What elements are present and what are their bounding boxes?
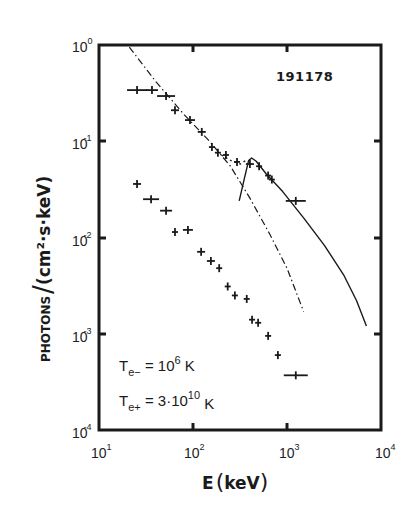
data-point-cross [215, 149, 221, 157]
data-point-cross [244, 295, 250, 303]
data-point-cross [146, 86, 158, 94]
svg-text:103: 103 [279, 442, 300, 461]
y-tick-labels: 100 10-1 10-2 10-3 10-4 [72, 36, 93, 441]
data-point-cross [157, 92, 175, 100]
solid-model-curve [239, 158, 366, 326]
y-axis-label: PHOTONS/(cm²·s·keV) [28, 176, 58, 362]
data-point-cross [197, 248, 205, 256]
data-point-cross [133, 180, 141, 188]
data-points [127, 86, 308, 379]
data-point-cross [255, 319, 261, 327]
data-point-cross [216, 264, 222, 272]
data-point-cross [284, 371, 308, 379]
svg-text:101: 101 [91, 442, 112, 461]
te-minus-annotation: Te− = 106 K [119, 354, 195, 378]
dashdot-model-curve [129, 47, 303, 312]
data-point-cross [265, 332, 271, 340]
svg-text:PHOTONS/(cm²·s·keV): PHOTONS/(cm²·s·keV) [28, 176, 58, 362]
data-point-cross [183, 226, 193, 234]
run-id-label: 191178 [276, 69, 333, 84]
te-plus-annotation: Te+ = 3·1010 K [119, 389, 214, 413]
svg-text:104: 104 [375, 442, 396, 461]
data-point-cross [198, 128, 206, 136]
svg-text:10-4: 10-4 [72, 422, 92, 441]
svg-text:100: 100 [72, 36, 93, 55]
data-point-cross [207, 257, 215, 265]
svg-text:10-3: 10-3 [72, 326, 92, 345]
data-point-cross [275, 351, 281, 359]
spectrum-chart: 100 10-1 10-2 10-3 10-4 101 102 103 104 … [0, 0, 415, 520]
svg-text:10-1: 10-1 [72, 133, 92, 152]
data-point-cross [160, 207, 172, 215]
model-curves [129, 47, 366, 326]
data-point-cross [172, 228, 178, 236]
data-point-cross [209, 143, 215, 151]
data-point-cross [143, 195, 159, 203]
x-tick-labels: 101 102 103 104 [91, 442, 396, 461]
data-point-cross [234, 158, 240, 166]
data-point-cross [286, 197, 306, 205]
svg-text:102: 102 [184, 442, 205, 461]
data-point-cross [127, 86, 147, 94]
data-point-cross [249, 316, 255, 324]
x-axis-label: E(keV) [202, 469, 268, 494]
svg-text:10-2: 10-2 [72, 230, 92, 249]
data-point-cross [225, 282, 231, 290]
data-point-cross [232, 291, 238, 299]
data-point-cross [256, 162, 262, 170]
